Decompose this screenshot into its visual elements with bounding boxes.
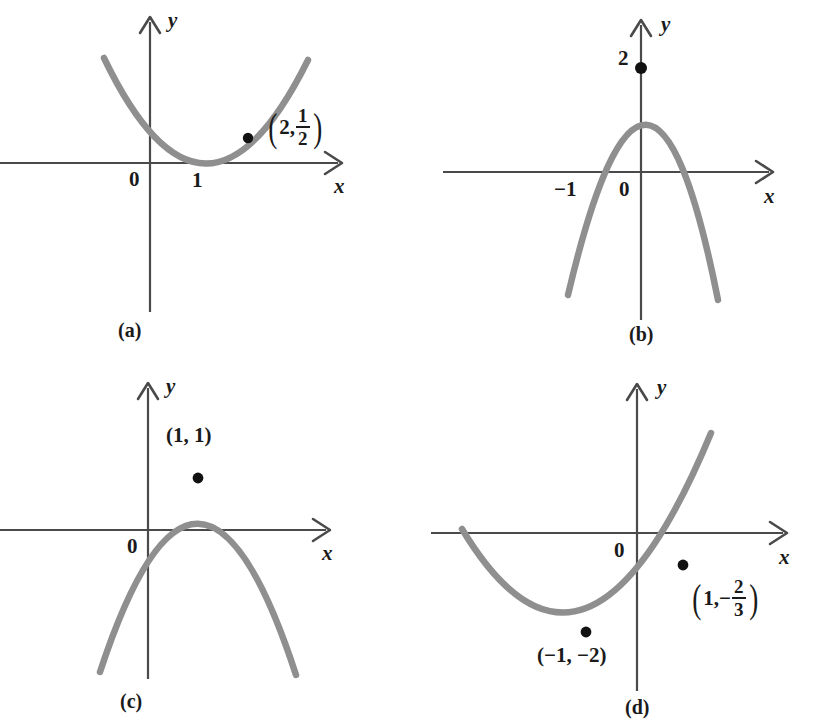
panel-c-graph xyxy=(0,361,409,723)
y-axis-label: y xyxy=(166,376,175,397)
x-axis-label: x xyxy=(322,543,333,564)
tick-label-0: 0 xyxy=(619,179,630,200)
panel-c: y x 0 (1, 1) (c) xyxy=(0,361,409,723)
left-paren: ( xyxy=(268,112,277,143)
tick-label-0: 0 xyxy=(614,540,625,561)
vertex-point-dot xyxy=(581,627,592,638)
point-label-1-1: (1, 1) xyxy=(166,425,212,446)
tick-label-0: 0 xyxy=(129,169,140,190)
fraction-sign: − xyxy=(719,588,731,609)
y-axis-label: y xyxy=(168,10,177,31)
panel-caption-a: (a) xyxy=(118,320,141,340)
point-label-1-minus-two-thirds: ( 1 , − 2 3 ) xyxy=(690,577,760,620)
y-axis-label: y xyxy=(661,14,670,35)
panel-a: y x 0 1 ( 2 , 1 2 ) (a) xyxy=(0,0,409,361)
fraction: 1 2 xyxy=(296,106,310,149)
panel-a-graph xyxy=(0,0,409,362)
tick-label-2: 2 xyxy=(618,48,629,69)
fraction-denominator: 2 xyxy=(296,129,310,148)
panel-caption-c: (c) xyxy=(120,691,142,711)
marked-point-dot xyxy=(243,133,253,143)
fraction-numerator: 2 xyxy=(732,577,746,596)
point-x-value: 1 xyxy=(703,588,714,609)
fraction-numerator: 1 xyxy=(296,106,310,125)
tick-label-minus-1: −1 xyxy=(554,179,576,200)
fraction-denominator: 3 xyxy=(732,600,746,619)
marked-point-dot xyxy=(193,473,204,484)
left-paren: ( xyxy=(692,583,701,614)
fraction: 2 3 xyxy=(732,577,746,620)
panel-caption-b: (b) xyxy=(629,324,653,344)
parabola-curve xyxy=(568,125,718,300)
negative-fraction: − 2 3 xyxy=(719,577,746,620)
vertex-label-minus1-minus2: (−1, −2) xyxy=(537,645,606,666)
panel-d: y x 0 (−1, −2) ( 1 , − 2 3 ) (d) xyxy=(409,361,818,723)
point-x-value: 2 xyxy=(279,117,290,138)
x-axis-label: x xyxy=(334,176,345,197)
panel-caption-d: (d) xyxy=(625,697,649,717)
tick-label-1: 1 xyxy=(192,170,203,191)
point-separator: , xyxy=(290,117,295,138)
marked-point-dot xyxy=(678,560,689,571)
figure-four-parabola-graphs: y x 0 1 ( 2 , 1 2 ) (a) xyxy=(0,0,818,723)
panel-b-graph xyxy=(409,0,818,362)
x-axis-label: x xyxy=(764,186,775,207)
marked-point-dot xyxy=(635,62,647,74)
panel-b: y x 2 −1 0 (b) xyxy=(409,0,818,361)
x-axis-label: x xyxy=(779,547,790,568)
right-paren: ) xyxy=(749,583,758,614)
point-label-2-one-half: ( 2 , 1 2 ) xyxy=(266,106,324,149)
parabola-curve xyxy=(462,433,711,613)
tick-label-0: 0 xyxy=(127,536,138,557)
y-axis-label: y xyxy=(657,377,666,398)
right-paren: ) xyxy=(313,112,322,143)
